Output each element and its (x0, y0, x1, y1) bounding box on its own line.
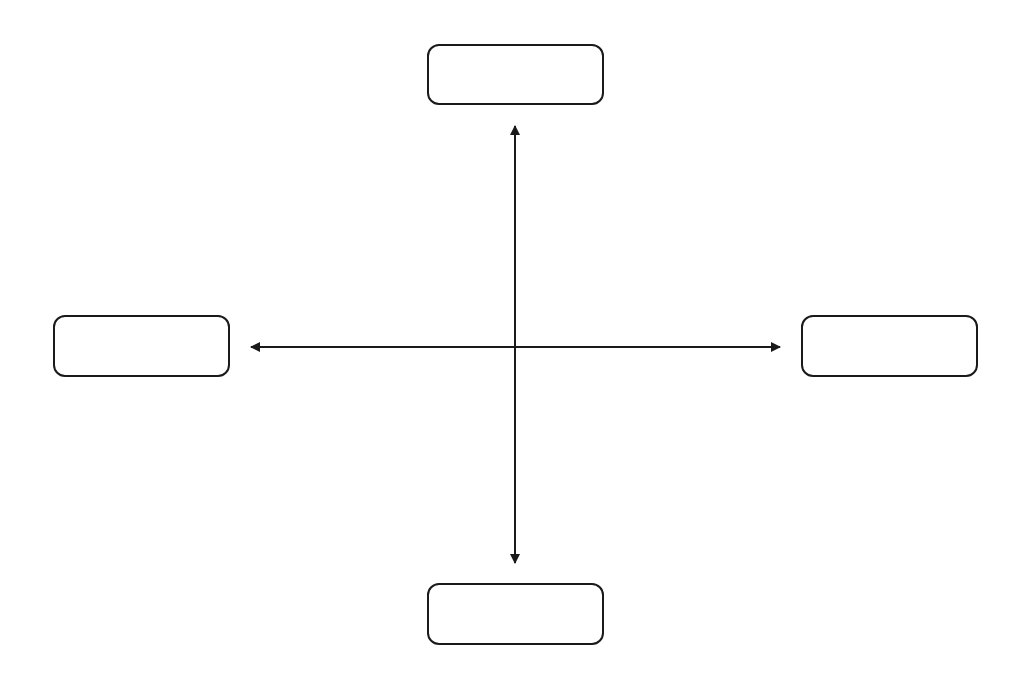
node-left (53, 315, 230, 377)
node-bottom (427, 583, 604, 645)
node-top (427, 44, 604, 105)
node-right (801, 315, 978, 377)
